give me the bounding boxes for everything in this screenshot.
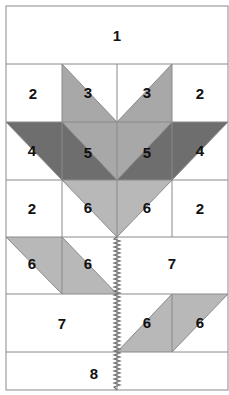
piece-label-8: 8 bbox=[90, 365, 98, 382]
piece-label-2: 2 bbox=[29, 85, 37, 102]
piece-label-6: 6 bbox=[84, 199, 92, 216]
piece-label-6: 6 bbox=[143, 199, 151, 216]
quilt-block-diagram: 1 2 3 3 2 4 5 5 4 2 6 6 2 6 6 7 7 6 6 8 bbox=[0, 0, 229, 395]
piece-label-7: 7 bbox=[58, 315, 66, 332]
piece-label-6: 6 bbox=[143, 314, 151, 331]
piece-label-4: 4 bbox=[28, 142, 37, 159]
piece-label-3: 3 bbox=[84, 84, 92, 101]
piece-label-6: 6 bbox=[84, 255, 92, 272]
piece-label-1: 1 bbox=[113, 27, 121, 44]
piece-label-4: 4 bbox=[196, 142, 205, 159]
piece-label-5: 5 bbox=[143, 144, 151, 161]
piece-label-2: 2 bbox=[28, 200, 36, 217]
piece-label-6: 6 bbox=[28, 255, 36, 272]
piece-label-2: 2 bbox=[196, 200, 204, 217]
piece-label-7: 7 bbox=[168, 255, 176, 272]
piece-label-2: 2 bbox=[196, 85, 204, 102]
piece-label-3: 3 bbox=[143, 84, 151, 101]
piece-label-5: 5 bbox=[84, 144, 92, 161]
piece-label-6: 6 bbox=[196, 314, 204, 331]
